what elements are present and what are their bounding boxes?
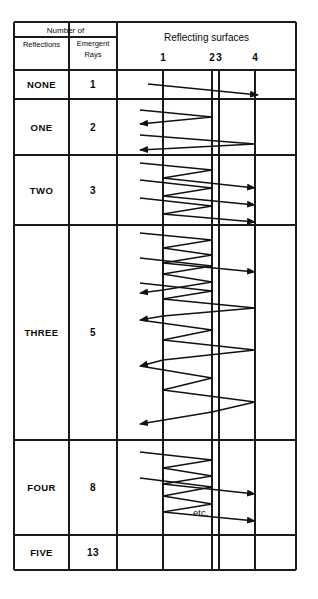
ray-two-2: [140, 180, 255, 205]
ray-two-1: [140, 163, 255, 188]
ray-three-4: [140, 320, 255, 366]
table-grid: [14, 22, 296, 570]
ray-one-2: [140, 135, 255, 150]
ray-none-1: [148, 84, 258, 95]
ray-two-3: [140, 198, 255, 222]
ray-paths: [140, 84, 258, 521]
ray-three-1: [140, 233, 255, 272]
ray-three-3: [140, 283, 255, 320]
figure-canvas: Number of Reflections Emergent Rays Refl…: [0, 0, 318, 599]
reflection-diagram-svg: [0, 0, 318, 599]
ray-three-5: [140, 366, 255, 424]
ray-four-1: [140, 452, 255, 494]
ray-one-1: [140, 110, 212, 124]
ray-four-2: [140, 478, 255, 521]
